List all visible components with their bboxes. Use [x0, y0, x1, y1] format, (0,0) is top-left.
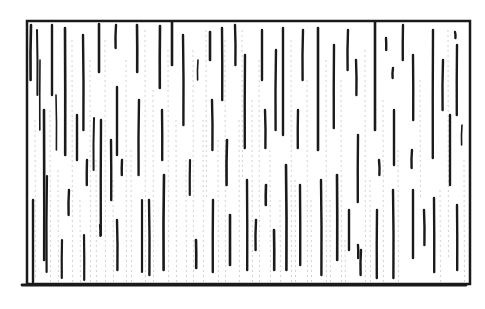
hatch-stroke	[30, 25, 31, 80]
hatch-stroke	[379, 160, 380, 175]
hatch-stroke	[226, 140, 227, 185]
hatch-stroke	[442, 60, 443, 110]
hatch-stroke	[46, 176, 47, 272]
faint-hatch-line	[295, 180, 296, 282]
faint-hatch-line	[50, 110, 51, 282]
hatch-stroke	[347, 30, 348, 70]
hatch-stroke	[197, 60, 198, 80]
hatch-stroke	[117, 220, 118, 270]
hatch-stroke	[321, 180, 322, 275]
hatch-stroke	[68, 190, 69, 215]
hatch-stroke	[163, 175, 164, 270]
hatch-stroke	[424, 210, 425, 245]
faint-hatch-line	[345, 240, 346, 282]
faint-hatch-line	[307, 80, 308, 282]
hatch-stroke	[235, 25, 236, 65]
hatch-stroke	[455, 32, 456, 38]
hatch-stroke	[149, 200, 150, 275]
hatch-stroke	[93, 118, 94, 170]
hatch-stroke	[83, 35, 84, 130]
hatch-stroke	[275, 50, 276, 130]
hatch-stroke	[356, 60, 357, 95]
hatch-stroke	[286, 165, 287, 270]
faint-hatch-line	[58, 170, 59, 282]
hatched-rectangle-illustration	[0, 0, 485, 309]
faint-hatch-line	[291, 40, 292, 282]
faint-hatch-line	[341, 80, 342, 282]
hatch-stroke	[138, 100, 139, 175]
faint-hatch-line	[113, 180, 114, 282]
hatch-stroke	[212, 100, 213, 150]
hatch-stroke	[56, 95, 57, 150]
faint-hatch-line	[370, 180, 371, 282]
hatch-stroke	[461, 125, 462, 145]
hatch-stroke	[411, 150, 412, 168]
hatch-stroke	[360, 250, 361, 275]
hatch-stroke	[393, 190, 394, 278]
hatch-stroke	[255, 220, 256, 250]
hatch-stroke	[265, 110, 266, 148]
hatch-stroke	[302, 30, 303, 80]
hatch-stroke	[183, 35, 184, 125]
hatch-stroke	[392, 68, 393, 78]
hatch-stroke	[37, 30, 38, 95]
hatch-stroke	[115, 25, 116, 48]
